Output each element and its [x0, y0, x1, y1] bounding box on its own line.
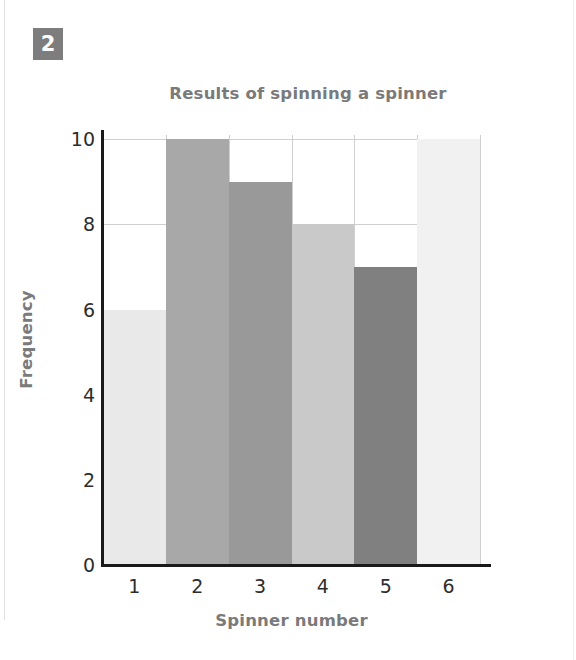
y-tick-label: 10	[55, 128, 95, 150]
gridline-vertical	[480, 135, 481, 565]
y-axis-tick-labels: 0246810	[51, 135, 95, 565]
bar-chart-figure: Results of spinning a spinner 0246810 12…	[0, 0, 576, 660]
y-axis-title: Frequency	[17, 270, 36, 410]
bar-1	[103, 310, 166, 565]
x-tick-label: 6	[443, 575, 455, 597]
x-tick-label: 2	[191, 575, 203, 597]
x-tick-label: 1	[128, 575, 140, 597]
x-tick-label: 3	[254, 575, 266, 597]
x-axis-tick-labels: 123456	[103, 575, 480, 603]
y-tick-label: 8	[55, 213, 95, 235]
bar-series	[103, 135, 480, 565]
bar-6	[417, 139, 480, 565]
y-tick-label: 6	[55, 299, 95, 321]
x-axis-line	[101, 564, 491, 567]
x-tick-label: 5	[380, 575, 392, 597]
y-tick-label: 2	[55, 469, 95, 491]
y-axis-line	[101, 130, 104, 567]
x-tick-label: 4	[317, 575, 329, 597]
bar-5	[354, 267, 417, 565]
y-tick-label: 4	[55, 384, 95, 406]
bar-4	[292, 224, 354, 565]
x-axis-title: Spinner number	[103, 611, 480, 630]
bar-3	[229, 182, 292, 565]
y-tick-label: 0	[55, 554, 95, 576]
plot-area	[103, 135, 480, 565]
chart-title: Results of spinning a spinner	[103, 84, 513, 103]
bar-2	[166, 139, 229, 565]
